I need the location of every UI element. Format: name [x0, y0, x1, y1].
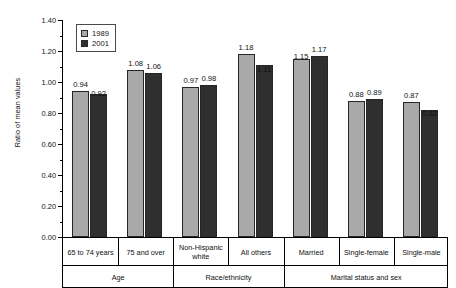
legend-label-2001: 2001 — [92, 39, 109, 48]
category-label-7: Single-male — [394, 238, 449, 266]
y-tick-label: 1.40 — [28, 16, 56, 25]
y-tick-label: 0.80 — [28, 109, 56, 118]
bar-1989-4 — [238, 54, 255, 237]
category-separator — [284, 238, 285, 266]
bar-1989-7 — [403, 102, 420, 237]
bar-2001-2 — [145, 73, 162, 237]
bar-value-label: 1.08 — [128, 59, 143, 68]
legend-item-2001: 2001 — [81, 38, 109, 48]
bar-value-label: 0.97 — [183, 76, 198, 85]
category-label-3: Non-Hispanic white — [173, 238, 228, 266]
bar-value-label: 0.98 — [201, 74, 216, 83]
legend-swatch-2001-icon — [81, 40, 88, 47]
group-separator — [284, 266, 285, 288]
bar-value-label: 0.88 — [349, 90, 364, 99]
y-tick-label: 1.20 — [28, 47, 56, 56]
group-separator — [173, 266, 174, 288]
group-axis: AgeRace/ethnicityMarital status and sex — [62, 266, 448, 288]
bar-chart: Ratio of mean values 0.000.200.400.600.8… — [0, 0, 456, 288]
bar-value-label: 1.18 — [239, 43, 254, 52]
group-label-1: Age — [63, 266, 173, 288]
legend-label-1989: 1989 — [92, 29, 109, 38]
bar-2001-7 — [421, 110, 438, 237]
category-label-1: 65 to 74 years — [63, 238, 118, 266]
bar-value-label: 1.15 — [294, 52, 309, 61]
y-tick-label: 1.00 — [28, 78, 56, 87]
y-axis-title: Ratio of mean values — [13, 58, 22, 168]
category-label-5: Married — [284, 238, 339, 266]
legend-swatch-1989-icon — [81, 30, 88, 37]
bar-1989-6 — [348, 101, 365, 237]
bar-2001-3 — [200, 85, 217, 237]
bar-1989-2 — [127, 70, 144, 237]
category-separator — [394, 238, 395, 266]
y-tick-label: 0.20 — [28, 202, 56, 211]
bar-value-label: 0.94 — [73, 80, 88, 89]
legend-item-1989: 1989 — [81, 28, 109, 38]
group-label-2: Race/ethnicity — [173, 266, 283, 288]
category-label-4: All others — [228, 238, 283, 266]
bar-1989-5 — [293, 59, 310, 237]
bar-value-label: 1.17 — [312, 45, 327, 54]
bar-value-label: 0.92 — [91, 89, 106, 98]
category-separator — [228, 238, 229, 266]
bar-2001-4 — [256, 65, 273, 237]
bar-2001-1 — [90, 94, 107, 237]
y-tick-label: 0.60 — [28, 140, 56, 149]
y-tick-label: 0.40 — [28, 171, 56, 180]
bar-1989-1 — [72, 91, 89, 237]
bar-value-label: 0.89 — [367, 88, 382, 97]
bar-value-label: 1.06 — [146, 62, 161, 71]
bar-value-label: 0.82 — [422, 109, 437, 118]
category-label-6: Single-female — [339, 238, 394, 266]
chart-legend: 1989 2001 — [76, 24, 116, 52]
category-separator — [118, 238, 119, 266]
bar-2001-5 — [311, 56, 328, 237]
category-label-2: 75 and over — [118, 238, 173, 266]
group-label-3: Marital status and sex — [284, 266, 449, 288]
bar-1989-3 — [182, 87, 199, 237]
plot-area: 0.000.200.400.600.801.001.201.40 1989 20… — [62, 20, 448, 237]
category-separator — [339, 238, 340, 266]
category-axis: 65 to 74 years75 and overNon-Hispanic wh… — [62, 238, 448, 266]
bar-2001-6 — [366, 99, 383, 237]
y-tick-label: 0.00 — [28, 233, 56, 242]
bar-value-label: 0.87 — [404, 91, 419, 100]
bars-layer: 0.940.921.081.060.970.981.181.111.151.17… — [62, 20, 448, 237]
category-separator — [173, 238, 174, 266]
bar-value-label: 1.11 — [257, 65, 271, 74]
